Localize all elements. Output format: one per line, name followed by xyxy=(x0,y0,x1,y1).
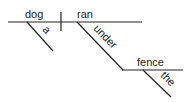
prepositional-object-word: fence xyxy=(137,56,164,68)
preposition-word: under xyxy=(92,22,120,51)
object-modifier-word: the xyxy=(159,69,178,88)
subject-word: dog xyxy=(25,8,43,20)
verb-word: ran xyxy=(77,8,93,20)
subject-modifier-word: a xyxy=(41,23,55,36)
sentence-diagram: dog ran a under fence the xyxy=(0,0,191,102)
